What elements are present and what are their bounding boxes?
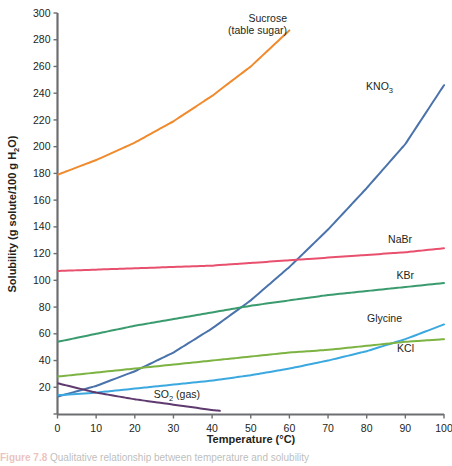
y-tick-label: 200: [33, 140, 51, 152]
y-tick-label: 60: [39, 327, 51, 339]
figure-caption-text: Qualitative relationship between tempera…: [50, 452, 309, 463]
series-label-kno3: KNO3: [366, 80, 393, 95]
y-tick-label: 120: [33, 247, 51, 259]
figure-caption: Figure 7.8 Qualitative relationship betw…: [0, 452, 452, 466]
label-subscript: 3: [389, 86, 393, 95]
y-tick-label: 180: [33, 167, 51, 179]
x-axis-title: Temperature (°C): [207, 433, 296, 445]
y-axis-ticks: 2040608010012014016018020022024026028030…: [33, 7, 58, 414]
series-line-glycine: [58, 324, 445, 395]
chart-axes: [58, 13, 445, 415]
label-text: (gas): [173, 388, 200, 400]
label-text: Glycine: [367, 312, 402, 324]
x-tick-label: 20: [129, 422, 141, 434]
figure-caption-number: Figure 7.8: [0, 452, 47, 463]
y-tick-label: 20: [39, 381, 51, 393]
x-axis-ticks: 0102030405060708090100: [55, 414, 452, 434]
series-line-kno3: [58, 85, 445, 396]
solubility-line-chart: 2040608010012014016018020022024026028030…: [0, 0, 452, 466]
series-label-kcl: KCl: [397, 342, 414, 354]
y-tick-label: 40: [39, 354, 51, 366]
y-axis-title: Solubility (g solute/100 g H2O): [6, 135, 21, 292]
x-tick-label: 90: [400, 422, 412, 434]
x-tick-label: 0: [55, 422, 61, 434]
label-text: KNO: [366, 80, 389, 92]
y-tick-label: 80: [39, 301, 51, 313]
series-label-nabr: NaBr: [388, 233, 412, 245]
series-label-line: (table sugar): [228, 24, 287, 36]
series-label-line: Sucrose: [248, 12, 287, 24]
y-title-text: O): [6, 135, 18, 148]
solubility-figure: 2040608010012014016018020022024026028030…: [0, 0, 452, 466]
series-line-sucrose-table-sugar-: [58, 30, 290, 174]
y-tick-label: 260: [33, 60, 51, 72]
y-tick-label: 220: [33, 114, 51, 126]
series-line-nabr: [58, 248, 445, 271]
y-title-text: Solubility (g solute/100 g H: [6, 152, 18, 293]
y-tick-label: 300: [33, 7, 51, 19]
x-tick-label: 10: [90, 422, 102, 434]
series-label-sucrose-table-sugar-: Sucrose(table sugar): [228, 12, 287, 36]
label-text: KCl: [397, 342, 414, 354]
y-tick-label: 160: [33, 194, 51, 206]
x-tick-label: 70: [322, 422, 334, 434]
series-label-glycine: Glycine: [367, 312, 402, 324]
label-text: SO: [154, 388, 169, 400]
y-tick-label: 240: [33, 87, 51, 99]
y-tick-label: 280: [33, 33, 51, 45]
label-text: NaBr: [388, 233, 412, 245]
y-tick-label: 140: [33, 220, 51, 232]
series-line-kcl: [58, 339, 445, 376]
y-tick-label: 100: [33, 274, 51, 286]
series-label-so2-gas-: SO2 (gas): [154, 388, 200, 403]
x-tick-label: 30: [168, 422, 180, 434]
label-text: KBr: [396, 269, 414, 281]
x-tick-label: 80: [361, 422, 373, 434]
series-label-kbr: KBr: [396, 269, 414, 281]
x-tick-label: 100: [435, 422, 452, 434]
